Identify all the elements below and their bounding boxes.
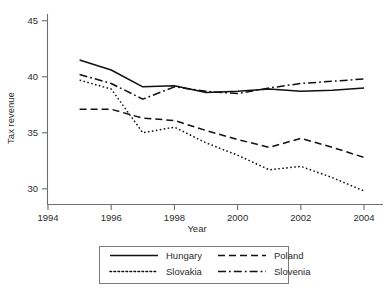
x-axis-title: Year	[187, 223, 206, 234]
series-line-poland	[80, 109, 364, 157]
legend-label-hungary: Hungary	[166, 250, 202, 261]
chart-canvas: Tax revenue 30354045 1994199619982000200…	[0, 0, 387, 293]
series-line-hungary	[80, 60, 364, 93]
y-tick-label: 45	[27, 15, 38, 26]
x-tick-label: 1994	[37, 212, 58, 223]
x-tick-label: 2004	[353, 212, 374, 223]
x-axis-ticks: 199419961998200020022004	[37, 205, 374, 224]
legend-label-poland: Poland	[274, 250, 304, 261]
tax-revenue-line-chart: Tax revenue 30354045 1994199619982000200…	[0, 0, 387, 293]
y-tick-label: 35	[27, 127, 38, 138]
y-axis-ticks: 30354045	[27, 15, 47, 194]
series-line-slovenia	[80, 75, 364, 100]
x-tick-label: 1998	[164, 212, 185, 223]
chart-legend: HungaryPolandSlovakiaSlovenia	[100, 247, 312, 284]
legend-label-slovenia: Slovenia	[274, 266, 311, 277]
legend-label-slovakia: Slovakia	[166, 266, 203, 277]
y-axis-title: Tax revenue	[5, 92, 16, 144]
x-tick-label: 2002	[290, 212, 311, 223]
series-layer	[80, 60, 364, 191]
y-tick-label: 30	[27, 183, 38, 194]
x-tick-label: 1996	[101, 212, 122, 223]
y-tick-label: 40	[27, 71, 38, 82]
x-tick-label: 2000	[227, 212, 248, 223]
